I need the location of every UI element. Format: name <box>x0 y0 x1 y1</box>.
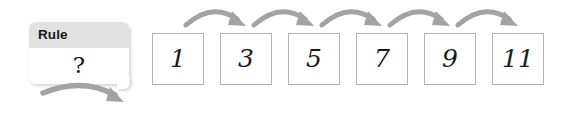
number-sequence: 1 3 5 7 9 11 <box>152 33 544 85</box>
number-box-value: 9 <box>425 34 475 84</box>
rule-card-title: Rule <box>38 26 68 43</box>
rule-value-placeholder[interactable]: ? <box>29 50 129 80</box>
number-box-value: 7 <box>357 34 407 84</box>
worksheet-canvas: Rule ? 1 3 5 7 9 11 <box>0 0 588 113</box>
step-curved-arrow <box>322 11 382 26</box>
rule-card[interactable]: Rule ? <box>29 22 129 84</box>
step-curved-arrow <box>458 11 518 26</box>
step-curved-arrow <box>254 11 314 26</box>
number-box[interactable]: 9 <box>424 33 476 85</box>
number-box[interactable]: 1 <box>152 33 204 85</box>
step-curved-arrow <box>390 11 450 26</box>
number-box-value: 11 <box>493 34 543 84</box>
number-box-value: 5 <box>289 34 339 84</box>
rule-card-body: ? <box>29 48 129 84</box>
number-box-value: 3 <box>221 34 271 84</box>
number-box[interactable]: 5 <box>288 33 340 85</box>
number-box[interactable]: 7 <box>356 33 408 85</box>
rule-curved-arrow <box>43 85 124 102</box>
number-box-value: 1 <box>153 34 203 84</box>
number-box[interactable]: 3 <box>220 33 272 85</box>
number-box[interactable]: 11 <box>492 33 544 85</box>
rule-card-header: Rule <box>29 22 129 48</box>
callout-tail-icon <box>117 77 130 89</box>
step-curved-arrow <box>186 11 246 26</box>
